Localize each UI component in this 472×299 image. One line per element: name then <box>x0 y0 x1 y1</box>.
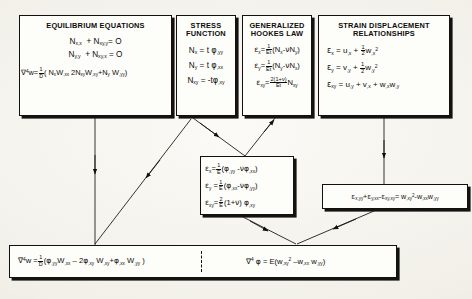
box-stress-function-title: STRESS FUNCTION <box>177 22 235 38</box>
box-stress-function-title-line2: FUNCTION <box>186 29 226 38</box>
box-stress-function: STRESS FUNCTION Nx = t φ,yy Ny = t φ,xx … <box>176 15 236 116</box>
box-generalized-hookes-law: GENERALIZED HOOKES LAW εx=1Et(Nx-νNy) εy… <box>242 15 312 116</box>
equation-strain-epsilon-x: εx = u,x + 12w,x2 <box>327 45 449 58</box>
box-strain-displacement-title-line2: RELATIONSHIPS <box>353 29 415 38</box>
arrowhead-hooke-to-strain-stress <box>264 120 274 132</box>
box-equilibrium-equations-list: Nx,x + Nxy,y= O Ny,y + Nxy,x = O ∇4w=1D(… <box>20 37 171 79</box>
equation-ssf-epsilon-y: εy =1E(φ,xx-νφ,yy) <box>205 180 293 192</box>
diagram-canvas: EQUILIBRIUM EQUATIONS Nx,x + Nxy,y= O Ny… <box>0 0 472 299</box>
equation-strain-epsilon-xy: εxy = u,y + v,x + w,xw,y <box>327 80 449 89</box>
equation-Nxy: Nxy = -tφ,xy <box>177 75 235 85</box>
equation-Ny: Ny = t φ,xx <box>177 60 235 70</box>
box-strain-displacement-title: STRAIN DISPLACEMENT RELATIONSHIPS <box>319 22 449 38</box>
equation-equilibrium-x: Nx,x + Nxy,y= O <box>20 37 171 46</box>
equation-hooke-epsilon-y: εy=1Et(Ny-νNx) <box>243 60 311 72</box>
equation-hooke-epsilon-xy: εxy=2(1+ν)EtNxy <box>243 77 311 89</box>
equation-ssf-epsilon-xy: εxy=2E(1+ν) φ,xy <box>205 197 293 209</box>
box-strain-stress-function-equations-list: εx=1E(φ,yy -νφ,xx) εy =1E(φ,xx-νφ,yy) εx… <box>201 163 293 209</box>
arrowhead-strainstress-to-governing <box>250 221 268 231</box>
equation-equilibrium-transverse: ∇4w=1D( NxW,xx 2NxyW,xy+Ny W,yy) <box>21 67 171 79</box>
arrowhead-stress-to-governing <box>146 160 160 178</box>
arrow-stress-to-governing <box>95 119 191 244</box>
equation-hooke-epsilon-x: εx=1Et(Nx-νNy) <box>243 44 311 56</box>
equation-governing-phi: ∇4 φ = E(w,xy2 –w,xx w,yy) <box>202 257 396 266</box>
box-hookes-law-equations-list: εx=1Et(Nx-νNy) εy=1Et(Ny-νNx) εxy=2(1+ν)… <box>243 44 311 89</box>
arrowhead-stress-to-strain-stress <box>200 123 219 137</box>
box-compatibility-equations-list: εx,yy+εy,xx-εxy,xy= w,xy2-w,xxw,yy <box>323 192 467 201</box>
equation-governing-w: ∇4w =1D(φ,yyW,xx – 2φ,xy W,xy+φ,xx W,yy … <box>10 255 196 267</box>
arrowhead-compat-to-governing <box>333 219 356 229</box>
box-stress-function-equations-list: Nx = t φ,yy Ny = t φ,xx Nxy = -tφ,xy <box>177 45 235 86</box>
equation-compatibility: εx,yy+εy,xx-εxy,xy= w,xy2-w,xxw,yy <box>323 192 467 201</box>
box-strain-displacement-equations-list: εx = u,x + 12w,x2 εy = v,y + 12w,y2 εxy … <box>319 45 449 90</box>
box-equilibrium-title: EQUILIBRIUM EQUATIONS <box>20 22 171 30</box>
box-governing-equations: ∇4w =1D(φ,yyW,xx – 2φ,xy W,xy+φ,xx W,yy … <box>9 245 397 278</box>
box-hookes-law-title: GENERALIZED HOOKES LAW <box>243 22 311 38</box>
equation-Nx: Nx = t φ,yy <box>177 45 235 55</box>
equation-ssf-epsilon-x: εx=1E(φ,yy -νφ,xx) <box>205 163 293 175</box>
box-hookes-law-title-line2: HOOKES LAW <box>251 29 304 38</box>
box-compatibility-equation: εx,yy+εy,xx-εxy,xy= w,xy2-w,xxw,yy <box>322 184 468 209</box>
equation-equilibrium-y: Ny,y + Nxy,x = O <box>20 50 171 59</box>
box-equilibrium-equations: EQUILIBRIUM EQUATIONS Nx,x + Nxy,y= O Ny… <box>19 15 172 116</box>
box-strain-displacement-relationships: STRAIN DISPLACEMENT RELATIONSHIPS εx = u… <box>318 15 450 116</box>
equation-strain-epsilon-y: εy = v,y + 12w,y2 <box>327 62 449 75</box>
box-strain-stress-function: εx=1E(φ,yy -νφ,xx) εy =1E(φ,xx-νφ,yy) εx… <box>200 156 294 215</box>
